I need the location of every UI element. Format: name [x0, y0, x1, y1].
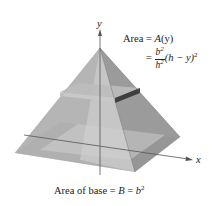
base-prefix-text: Area of base =: [54, 185, 118, 196]
area-arg-text: (y): [161, 33, 173, 44]
frac-num-exp: 2: [160, 45, 164, 53]
base-area-label: Area of base = B = b2: [54, 186, 145, 197]
area-prefix-text: Area =: [123, 33, 155, 44]
x-axis-arrow-icon: [186, 157, 194, 162]
frac-den-exp: 2: [160, 58, 164, 66]
cross-section-area-label: Area = A(y): [123, 34, 173, 45]
formula-tail: (h − y): [165, 52, 194, 63]
x-axis-label: x: [196, 155, 201, 166]
y-axis-label: y: [97, 19, 102, 30]
y-axis-arrow-icon: [98, 29, 102, 36]
formula-tail-exp: 2: [194, 51, 198, 59]
base-eq-text: =: [125, 185, 136, 196]
base-exp-text: 2: [141, 184, 145, 192]
equals-sign: =: [146, 52, 152, 63]
cross-section-area-formula: = b2 h2 (h − y)2: [146, 48, 198, 70]
pyramid-diagram: [0, 0, 214, 206]
fraction: b2 h2: [155, 48, 165, 70]
